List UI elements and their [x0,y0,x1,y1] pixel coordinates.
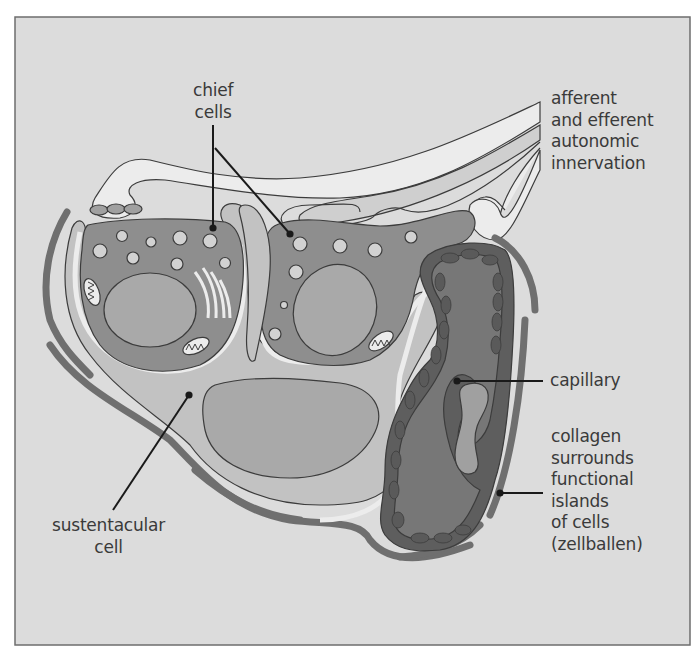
label-line: and efferent [551,110,653,132]
label-line: innervation [551,153,653,175]
label-line: (zellballen) [551,534,643,556]
label-line: collagen [551,426,643,448]
granule [171,258,183,270]
leader-dot [454,378,459,383]
label-capillary: capillary [550,370,620,392]
chief-cell-left [80,219,243,371]
granule [220,258,231,269]
granule [93,244,107,258]
label-line: cells [193,102,233,124]
label-line: surrounds [551,448,643,470]
granule [333,239,347,253]
leader-dot [210,225,215,230]
granule [173,231,187,245]
granule [405,231,417,243]
bouton [107,204,125,214]
label-sustentacular-cell: sustentacular cell [52,515,165,558]
granule [368,243,382,257]
label-line: chief [193,80,233,102]
label-line: afferent [551,88,653,110]
leader-dot [186,392,191,397]
label-collagen: collagen surrounds functional islands of… [551,426,643,555]
granule [293,237,307,251]
granule [281,302,288,309]
leader-dot [497,490,502,495]
leader-dot [287,231,292,236]
chief-cell-nucleus [104,273,196,347]
label-chief-cells: chief cells [193,80,233,123]
label-line: cell [52,537,165,559]
bouton [90,205,108,215]
label-line: capillary [550,370,620,392]
label-line: functional [551,469,643,491]
granule [269,328,281,340]
label-line: sustentacular [52,515,165,537]
bouton [124,204,142,214]
granule [289,265,303,279]
label-line: autonomic [551,131,653,153]
granule [146,237,156,247]
granule [127,252,139,264]
label-innervation: afferent and efferent autonomic innervat… [551,88,653,174]
figure-canvas: chief cells afferent and efferent autono… [0,0,695,666]
granule [117,231,128,242]
label-line: of cells [551,512,643,534]
granule [203,234,217,248]
label-line: islands [551,491,643,513]
